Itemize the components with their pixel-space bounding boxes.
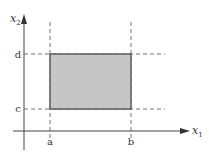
tick-label-a: a (47, 136, 53, 147)
shaded-region (50, 54, 131, 109)
y-axis-label: x2 (10, 12, 21, 27)
tick-label-b: b (128, 136, 134, 147)
tick-label-d: d (15, 49, 22, 60)
x-axis-arrow-icon (180, 128, 190, 134)
diagram-canvas: x2 x1 a b c d (0, 0, 209, 155)
y-axis-arrow-icon (21, 14, 27, 24)
x-axis-label: x1 (192, 124, 203, 139)
tick-label-c: c (15, 103, 21, 114)
